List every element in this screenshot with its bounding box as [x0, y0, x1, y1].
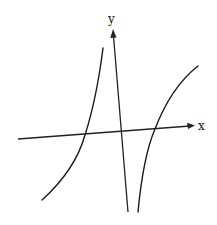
graph-canvas: x y: [0, 0, 217, 225]
left-branch-curve: [42, 48, 103, 200]
x-axis-label: x: [198, 119, 205, 133]
right-branch-curve: [138, 66, 198, 212]
function-graph-figure: x y: [0, 0, 217, 225]
y-axis-label: y: [107, 12, 115, 26]
x-axis-arrowhead: [187, 123, 195, 129]
x-axis: [18, 126, 190, 139]
y-axis: [114, 36, 129, 212]
y-axis-arrowhead: [110, 29, 116, 38]
